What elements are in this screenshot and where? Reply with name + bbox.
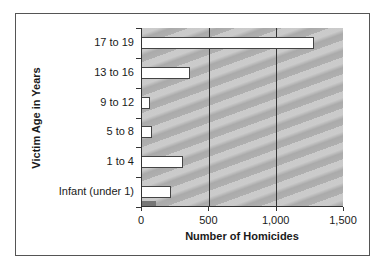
x-tick-label: 500: [199, 214, 217, 226]
x-tick: [276, 207, 277, 211]
x-tick-label: 1,500: [329, 214, 357, 226]
x-tick: [343, 207, 344, 211]
bar: [142, 37, 314, 49]
plot-area: [141, 28, 343, 207]
x-tick-label: 1,000: [262, 214, 290, 226]
category-label: 9 to 12: [100, 96, 134, 108]
shaded-patch: [142, 201, 156, 206]
x-axis-title: Number of Homicides: [185, 230, 299, 242]
gridline-500: [209, 28, 210, 206]
x-tick-label: 0: [138, 214, 144, 226]
x-tick: [208, 207, 209, 211]
gridline-1000: [276, 28, 277, 206]
x-tick: [141, 207, 142, 211]
bar: [142, 186, 171, 198]
y-axis-title: Victim Age in Years: [30, 67, 42, 168]
y-tick: [136, 177, 141, 178]
y-tick: [136, 88, 141, 89]
category-label: 5 to 8: [106, 125, 134, 137]
y-tick: [136, 58, 141, 59]
category-label: 17 to 19: [94, 36, 134, 48]
y-tick: [136, 28, 141, 29]
category-label: 1 to 4: [106, 155, 134, 167]
y-tick: [136, 118, 141, 119]
bar: [142, 67, 190, 79]
bar: [142, 97, 150, 109]
category-label: Infant (under 1): [59, 185, 134, 197]
bar: [142, 156, 183, 168]
bar: [142, 126, 152, 138]
category-label: 13 to 16: [94, 66, 134, 78]
y-tick: [136, 147, 141, 148]
